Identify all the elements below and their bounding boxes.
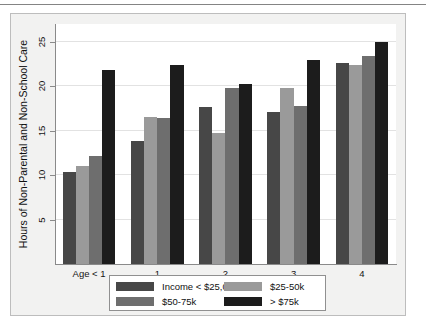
bar[interactable] bbox=[157, 118, 170, 264]
legend-label: $50-75k bbox=[162, 297, 196, 307]
bar-group bbox=[131, 24, 184, 264]
y-tick-label: 5 bbox=[36, 213, 48, 227]
bar[interactable] bbox=[267, 112, 280, 264]
bar-group bbox=[63, 24, 116, 264]
chart-legend: Income < $25,000$25-50k$50-75k> $75k bbox=[109, 275, 326, 311]
bar[interactable] bbox=[212, 133, 225, 264]
y-tick-label: 15 bbox=[36, 124, 48, 138]
bar[interactable] bbox=[89, 156, 102, 264]
chart-figure: Hours of Non-Parental and Non-School Car… bbox=[10, 13, 406, 316]
legend-label: $25-50k bbox=[270, 282, 304, 292]
legend-item[interactable]: $25-50k bbox=[224, 280, 304, 293]
legend-label: > $75k bbox=[270, 297, 299, 307]
bar[interactable] bbox=[349, 65, 362, 264]
bar[interactable] bbox=[170, 65, 183, 264]
bar[interactable] bbox=[102, 70, 115, 264]
bar[interactable] bbox=[131, 141, 144, 264]
bar[interactable] bbox=[225, 88, 238, 264]
legend-item[interactable]: $50-75k bbox=[116, 295, 196, 308]
y-tick-mark bbox=[50, 86, 55, 87]
bar[interactable] bbox=[362, 56, 375, 264]
bar[interactable] bbox=[375, 42, 388, 264]
y-tick-label: 25 bbox=[36, 35, 48, 49]
bar[interactable] bbox=[294, 106, 307, 264]
bar[interactable] bbox=[307, 60, 320, 264]
y-tick-mark bbox=[50, 42, 55, 43]
y-tick-mark bbox=[50, 220, 55, 221]
bar-group bbox=[267, 24, 320, 264]
bar[interactable] bbox=[199, 107, 212, 264]
bar[interactable] bbox=[144, 117, 157, 264]
bar[interactable] bbox=[280, 88, 293, 264]
legend-swatch bbox=[224, 297, 262, 306]
plot-area bbox=[55, 24, 396, 264]
x-tick-label: 4 bbox=[322, 268, 402, 279]
y-tick-mark bbox=[50, 175, 55, 176]
legend-item[interactable]: > $75k bbox=[224, 295, 299, 308]
y-axis-title: Hours of Non-Parental and Non-School Car… bbox=[16, 24, 30, 264]
bar[interactable] bbox=[63, 172, 76, 264]
y-tick-label: 20 bbox=[36, 79, 48, 93]
bar-group bbox=[199, 24, 252, 264]
legend-swatch bbox=[116, 297, 154, 306]
bar[interactable] bbox=[239, 84, 252, 264]
legend-swatch bbox=[116, 282, 154, 291]
y-tick-label: 10 bbox=[36, 168, 48, 182]
page-top-rule bbox=[0, 4, 426, 5]
y-tick-mark bbox=[50, 131, 55, 132]
bar-group bbox=[336, 24, 389, 264]
legend-item[interactable]: Income < $25,000 bbox=[116, 280, 238, 293]
legend-swatch bbox=[224, 282, 262, 291]
bar[interactable] bbox=[76, 166, 89, 264]
page-canvas: Hours of Non-Parental and Non-School Car… bbox=[0, 0, 426, 324]
bar[interactable] bbox=[336, 63, 349, 264]
x-axis-line bbox=[55, 264, 397, 265]
y-axis-line bbox=[55, 24, 56, 264]
